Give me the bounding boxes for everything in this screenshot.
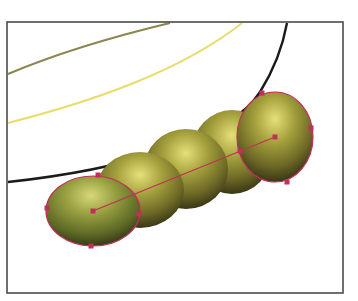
anchor-point-handle[interactable] [238, 149, 243, 154]
anchor-point-handle[interactable] [273, 135, 278, 140]
anchor-point-handle[interactable] [309, 126, 314, 131]
anchor-point-handle[interactable] [89, 244, 94, 249]
blend-artwork [0, 0, 358, 301]
anchor-point-handle[interactable] [45, 206, 50, 211]
anchor-point-handle[interactable] [285, 180, 290, 185]
anchor-point-handle[interactable] [137, 212, 142, 217]
anchor-point-handle[interactable] [91, 209, 96, 214]
illustration-canvas [0, 0, 358, 301]
anchor-point-handle[interactable] [260, 91, 265, 96]
anchor-point-handle[interactable] [96, 173, 101, 178]
